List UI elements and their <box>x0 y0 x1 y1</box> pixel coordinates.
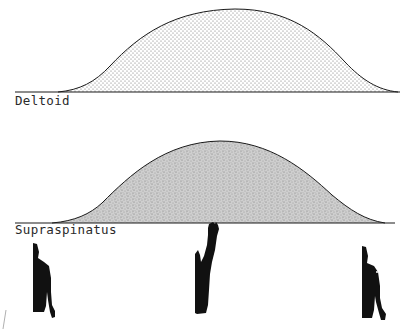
deltoid-area <box>58 9 398 92</box>
deltoid-curve <box>15 9 400 92</box>
arm-at-side-end-figure <box>362 246 386 320</box>
supraspinatus-area <box>52 141 385 223</box>
arm-fully-raised-figure <box>195 222 219 314</box>
deltoid-label: Deltoid <box>15 95 70 108</box>
supraspinatus-label: Supraspinatus <box>15 224 117 237</box>
supraspinatus-curve <box>15 141 395 223</box>
emg-diagram <box>0 0 405 329</box>
scan-artifact-mark <box>3 310 6 329</box>
arm-at-side-start-figure <box>33 243 55 318</box>
